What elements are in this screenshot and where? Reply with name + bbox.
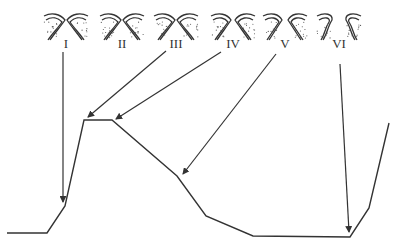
arrow-stage-v — [183, 54, 276, 174]
stage-label-v: V — [280, 36, 290, 51]
stage-labels: I II III IV V VI — [64, 36, 346, 51]
stage-label-vi: VI — [332, 36, 346, 51]
arrows — [63, 51, 349, 232]
arrow-stage-iii — [88, 51, 166, 117]
stage-label-iv: IV — [226, 36, 240, 51]
stage-diagram: I II III IV V VI — [0, 0, 398, 250]
stage-label-i: I — [64, 36, 68, 51]
stage-icons — [44, 14, 361, 40]
arrow-stage-iv — [116, 52, 221, 119]
stage-label-iii: III — [170, 36, 183, 51]
stage-label-ii: II — [118, 36, 127, 51]
arrow-stage-vi — [340, 64, 349, 232]
response-curve — [7, 120, 389, 237]
